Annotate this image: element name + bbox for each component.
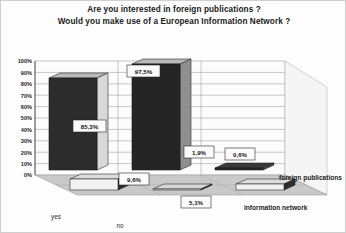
bar-front-no <box>153 184 212 190</box>
data-label-value: 5,1% <box>189 199 203 206</box>
category-label-no: no <box>116 222 124 229</box>
data-label-value: 1,9% <box>192 149 206 156</box>
bar-front-no-face <box>153 189 201 190</box>
data-label-value: 9,6% <box>127 176 141 183</box>
data-label-front-yes: 9,6% <box>119 173 149 185</box>
y-tick-label: 100% <box>18 58 32 64</box>
chart-title: Are you interested in foreign publicatio… <box>1 4 346 27</box>
bar-back-no-face <box>132 64 180 170</box>
chart-screenshot: Are you interested in foreign publicatio… <box>0 0 346 233</box>
category-label-yes: yes <box>51 213 61 221</box>
y-axis-tick-labels: 100% 90% 80% 70% 60% 50% 40% 30% 20% 10%… <box>18 58 32 178</box>
data-label-back-yes: 85,3% <box>73 120 106 132</box>
y-tick-label: 50% <box>21 115 32 121</box>
series-label-information-network: information network <box>244 204 308 211</box>
series-label-foreign-publications: foreign publications <box>279 174 342 182</box>
y-tick-label: 20% <box>21 150 32 156</box>
data-label-value: 85,3% <box>81 123 99 130</box>
data-label-front-no: 0,6% <box>225 148 255 160</box>
y-tick-label: 10% <box>21 161 32 167</box>
data-label-back-third: 1,9% <box>184 146 214 158</box>
y-tick-label: 0% <box>24 172 32 178</box>
data-label-back-no: 97,5% <box>127 65 160 77</box>
y-tick-label: 30% <box>21 138 32 144</box>
bar-front-yes-face <box>70 179 118 190</box>
bar-front-third-face <box>236 184 284 190</box>
y-tick-label: 40% <box>21 127 32 133</box>
y-tick-label: 60% <box>21 104 32 110</box>
bar-back-third-face <box>215 168 263 170</box>
chart-title-line-1: Are you interested in foreign publicatio… <box>1 4 346 16</box>
bar-back-third <box>215 163 274 170</box>
data-label-value: 97,5% <box>135 68 153 75</box>
data-label-front-third: 5,1% <box>181 196 211 208</box>
y-tick-label: 80% <box>21 81 32 87</box>
data-label-value: 0,6% <box>233 151 247 158</box>
chart-title-line-2: Would you make use of a European Informa… <box>1 16 346 28</box>
category-labels: yes no <box>51 213 124 229</box>
y-tick-label: 70% <box>21 93 32 99</box>
y-tick-label: 90% <box>21 70 32 76</box>
chart-plot-area: 100% 90% 80% 70% 60% 50% 40% 30% 20% 10%… <box>1 27 346 233</box>
